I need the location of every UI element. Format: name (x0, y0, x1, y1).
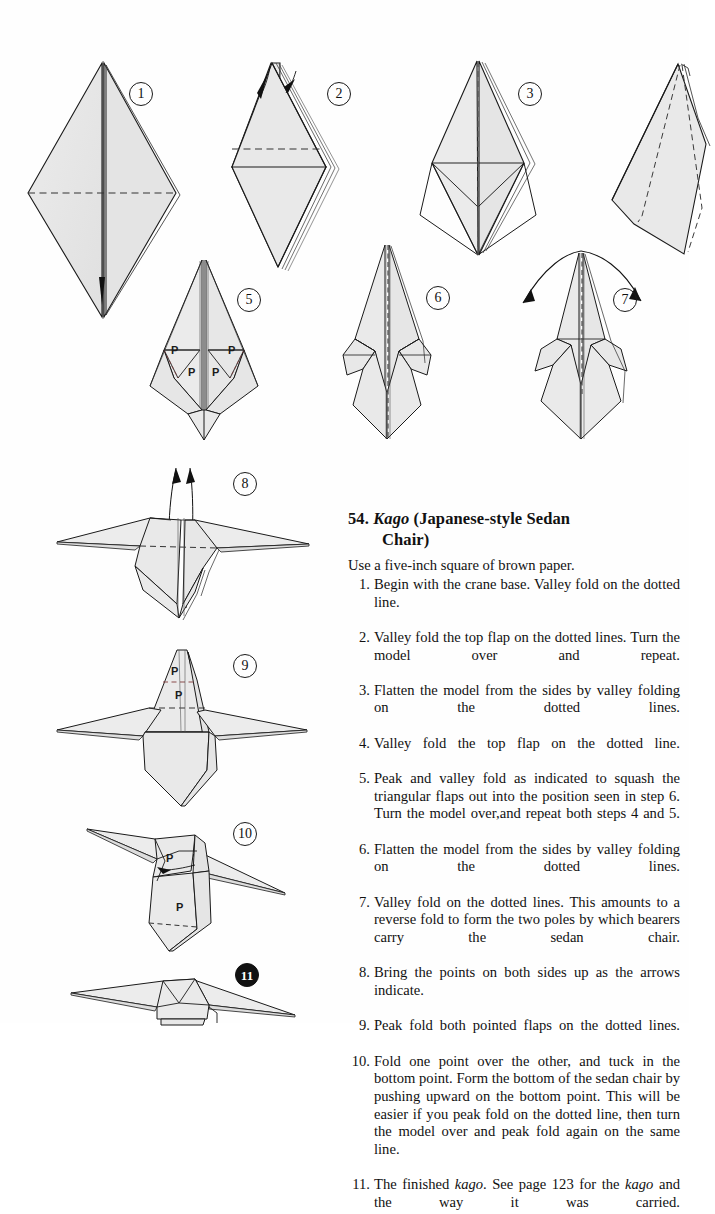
step-marker-4: 4. (348, 735, 370, 753)
step-number-7: 7 (613, 288, 637, 312)
step-text-6: Flatten the model from the sides by vall… (374, 841, 680, 894)
step-text-5: Peak and valley fold as indicated to squ… (374, 770, 680, 841)
intro-paragraph: Use a five-inch square of brown paper. (348, 557, 680, 575)
step-marker-11: 11. (348, 1176, 370, 1194)
step-number-7-label: 7 (622, 293, 629, 307)
step-11-kago-italic-1: kago (455, 1176, 483, 1192)
step-marker-1: 1. (348, 576, 370, 594)
peak-fold-marker-fig9-lower: P (175, 690, 182, 701)
step-11-kago-italic-2: kago (625, 1176, 653, 1192)
step-item-4: 4. Valley fold the top flap on the dotte… (348, 735, 680, 770)
peak-fold-marker-fig5-left-upper: P (171, 345, 178, 356)
title-rest-line1: (Japanese-style Sedan (414, 509, 571, 528)
step-number-1: 1 (129, 82, 153, 106)
step-marker-7: 7. (348, 894, 370, 912)
step-text-9: Peak fold both pointed flaps on the dott… (374, 1017, 680, 1052)
step-item-8: 8. Bring the points on both sides up as … (348, 964, 680, 1017)
peak-fold-marker-fig5-right-lower: P (212, 367, 219, 378)
figure-11-finished-kago-cropped (45, 963, 320, 1025)
step-number-5: 5 (237, 288, 261, 312)
step-text-3: Flatten the model from the sides by vall… (374, 682, 680, 735)
figure-10-fold-and-tuck (45, 815, 320, 960)
figure-6-flattened-model (333, 243, 443, 448)
step-number-9-label: 9 (242, 659, 249, 673)
step-number-11: 11 (235, 963, 259, 987)
step-marker-10: 10. (348, 1053, 370, 1071)
step-number-2: 2 (327, 82, 351, 106)
step-number-8-label: 8 (242, 477, 249, 491)
step-item-11: 11. The finished kago. See page 123 for … (348, 1176, 680, 1214)
title-kago-italic: Kago (373, 509, 409, 528)
step-marker-2: 2. (348, 629, 370, 647)
step-marker-8: 8. (348, 964, 370, 982)
step-item-10: 10. Fold one point over the other, and t… (348, 1053, 680, 1177)
step-number-10: 10 (233, 822, 257, 846)
step-text-11: The finished kago. See page 123 for the … (374, 1176, 680, 1214)
step-number-1-label: 1 (138, 87, 145, 101)
step-number-3: 3 (518, 82, 542, 106)
figure-7-reverse-fold-poles (505, 245, 655, 450)
peak-fold-marker-fig9-upper: P (171, 666, 178, 677)
step-text-8: Bring the points on both sides up as the… (374, 964, 680, 1017)
instruction-text-column: 54. Kago (Japanese-style Sedan Chair) Us… (348, 508, 680, 1214)
peak-fold-marker-fig5-right-upper: P (228, 345, 235, 356)
figure-5-squash-fold-markers (140, 258, 270, 443)
page-title: 54. Kago (Japanese-style Sedan Chair) (348, 508, 680, 550)
figure-8-bring-points-up (45, 458, 320, 633)
peak-fold-marker-fig10-upper: P (166, 853, 173, 864)
figure-9-peak-fold-flaps (45, 640, 320, 815)
step-item-3: 3. Flatten the model from the sides by v… (348, 682, 680, 735)
step-item-5: 5. Peak and valley fold as indicated to … (348, 770, 680, 841)
step-11-part-1: The finished (374, 1176, 455, 1192)
peak-fold-marker-fig5-left-lower: P (188, 367, 195, 378)
step-marker-5: 5. (348, 770, 370, 788)
title-number: 54. (348, 509, 369, 528)
step-number-11-label: 11 (241, 969, 253, 982)
step-number-5-label: 5 (246, 293, 253, 307)
step-item-7: 7. Valley fold on the dotted lines. This… (348, 894, 680, 965)
step-item-2: 2. Valley fold the top flap on the dotte… (348, 629, 680, 682)
step-text-10: Fold one point over the other, and tuck … (374, 1053, 680, 1177)
title-rest-line2: Chair) (348, 529, 680, 550)
step-item-9: 9. Peak fold both pointed flaps on the d… (348, 1017, 680, 1052)
step-11-part-2: . See page 123 for the (483, 1176, 625, 1192)
step-marker-6: 6. (348, 841, 370, 859)
step-item-6: 6. Flatten the model from the sides by v… (348, 841, 680, 894)
step-number-6-label: 6 (435, 291, 442, 305)
step-number-6: 6 (426, 286, 450, 310)
step-number-8: 8 (233, 472, 257, 496)
steps-list: 1. Begin with the crane base. Valley fol… (348, 576, 680, 1214)
step-number-3-label: 3 (527, 87, 534, 101)
step-number-2-label: 2 (336, 87, 343, 101)
figure-4-valley-fold-top-flap-cropped (598, 58, 715, 263)
step-number-9: 9 (233, 654, 257, 678)
step-item-1: 1. Begin with the crane base. Valley fol… (348, 576, 680, 629)
step-text-2: Valley fold the top flap on the dotted l… (374, 629, 680, 682)
step-text-4: Valley fold the top flap on the dotted l… (374, 735, 680, 770)
peak-fold-marker-fig10-lower: P (176, 902, 183, 913)
step-number-10-label: 10 (238, 827, 252, 841)
step-text-1: Begin with the crane base. Valley fold o… (374, 576, 680, 629)
step-marker-9: 9. (348, 1017, 370, 1035)
step-marker-3: 3. (348, 682, 370, 700)
step-text-7: Valley fold on the dotted lines. This am… (374, 894, 680, 965)
